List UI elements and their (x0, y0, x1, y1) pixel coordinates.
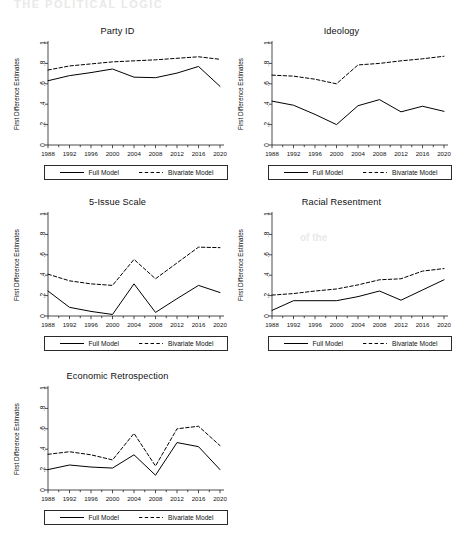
series-line-full-model (48, 443, 220, 476)
legend-item-full-model[interactable]: Full Model (59, 340, 119, 347)
x-tick-label: 2004 (127, 495, 141, 502)
legend-item-bivariate-model[interactable]: Bivariate Model (362, 340, 437, 347)
x-tick-label: 2012 (394, 321, 408, 328)
legend-item-full-model[interactable]: Full Model (283, 169, 343, 176)
legend-label: Full Model (313, 169, 343, 176)
chart-panel-racial-resentment: Racial Resentment0.2.4.6.81First Differe… (232, 197, 451, 359)
y-tick-label: 1 (39, 386, 46, 390)
plot-area: 0.2.4.6.81First Difference Estimates1988… (232, 26, 451, 188)
x-tick-label: 1988 (41, 495, 55, 502)
y-tick-label: .4 (263, 101, 270, 107)
legend-label: Full Model (89, 514, 119, 521)
legend-item-bivariate-model[interactable]: Bivariate Model (138, 340, 213, 347)
legend-item-bivariate-model[interactable]: Bivariate Model (138, 514, 213, 521)
y-tick-label: .2 (263, 121, 270, 127)
x-tick-label: 2004 (351, 150, 365, 157)
plot-area: 0.2.4.6.81First Difference Estimates1988… (8, 371, 227, 533)
y-tick-label: .4 (39, 272, 46, 278)
y-tick-label: .4 (39, 101, 46, 107)
plot-area: 0.2.4.6.81First Difference Estimates1988… (8, 197, 227, 359)
y-tick-label: .6 (263, 81, 270, 87)
legend-swatch-solid (59, 514, 85, 521)
chart-panel-economic-retrospection: Economic Retrospection0.2.4.6.81First Di… (8, 371, 227, 533)
y-tick-label: .6 (39, 81, 46, 87)
y-tick-label: .8 (39, 231, 46, 237)
x-tick-label: 1988 (265, 150, 279, 157)
legend-label: Bivariate Model (168, 340, 213, 347)
legend-swatch-solid (283, 169, 309, 176)
x-tick-label: 2008 (149, 150, 163, 157)
chart-legend: Full ModelBivariate Model (268, 336, 452, 351)
x-tick-label: 2020 (213, 150, 227, 157)
y-axis-label: First Difference Estimates (13, 229, 20, 301)
legend-item-bivariate-model[interactable]: Bivariate Model (362, 169, 437, 176)
legend-swatch-dashed (138, 340, 164, 347)
y-axis-label: First Difference Estimates (237, 229, 244, 301)
x-tick-label: 1992 (63, 321, 77, 328)
y-tick-label: 1 (263, 212, 270, 216)
y-tick-label: .6 (263, 252, 270, 258)
legend-swatch-dashed (138, 514, 164, 521)
x-tick-label: 2008 (149, 495, 163, 502)
x-tick-label: 2016 (192, 495, 206, 502)
x-tick-label: 2000 (106, 150, 120, 157)
x-tick-label: 2000 (330, 150, 344, 157)
chart-legend: Full ModelBivariate Model (44, 165, 228, 180)
y-tick-label: .8 (263, 60, 270, 66)
legend-item-bivariate-model[interactable]: Bivariate Model (138, 169, 213, 176)
legend-item-full-model[interactable]: Full Model (283, 340, 343, 347)
legend-label: Bivariate Model (392, 169, 437, 176)
y-tick-label: 0 (263, 143, 270, 147)
chart-legend: Full ModelBivariate Model (44, 336, 228, 351)
y-tick-label: 0 (39, 143, 46, 147)
series-line-bivariate-model (272, 269, 444, 296)
figure-sheet: THE POLITICAL LOGIC of the Party ID0.2.4… (0, 0, 454, 537)
y-tick-label: 1 (39, 212, 46, 216)
x-tick-label: 2004 (127, 321, 141, 328)
x-tick-label: 1996 (308, 321, 322, 328)
y-tick-label: .2 (39, 292, 46, 298)
y-tick-label: .4 (39, 446, 46, 452)
x-tick-label: 2016 (416, 321, 430, 328)
chart-legend: Full ModelBivariate Model (268, 165, 452, 180)
legend-label: Bivariate Model (168, 169, 213, 176)
plot-area: 0.2.4.6.81First Difference Estimates1988… (232, 197, 451, 359)
x-tick-label: 2000 (330, 321, 344, 328)
legend-swatch-dashed (362, 169, 388, 176)
y-tick-label: 0 (263, 314, 270, 318)
plot-area: 0.2.4.6.81First Difference Estimates1988… (8, 26, 227, 188)
x-tick-label: 2020 (437, 150, 451, 157)
x-tick-label: 2012 (170, 495, 184, 502)
legend-label: Full Model (313, 340, 343, 347)
legend-swatch-dashed (138, 169, 164, 176)
legend-item-full-model[interactable]: Full Model (59, 169, 119, 176)
x-tick-label: 2012 (170, 321, 184, 328)
legend-label: Full Model (89, 340, 119, 347)
series-line-bivariate-model (272, 56, 444, 84)
legend-swatch-dashed (362, 340, 388, 347)
x-tick-label: 2016 (416, 150, 430, 157)
x-tick-label: 2004 (127, 150, 141, 157)
y-tick-label: .2 (263, 292, 270, 298)
x-tick-label: 2020 (437, 321, 451, 328)
series-line-full-model (48, 284, 220, 315)
x-tick-label: 2020 (213, 495, 227, 502)
y-axis-label: First Difference Estimates (13, 403, 20, 475)
x-tick-label: 1996 (84, 495, 98, 502)
x-tick-label: 2000 (106, 495, 120, 502)
series-line-full-model (272, 100, 444, 125)
chart-panel-party-id: Party ID0.2.4.6.81First Difference Estim… (8, 26, 227, 188)
y-tick-label: 1 (39, 41, 46, 45)
legend-item-full-model[interactable]: Full Model (59, 514, 119, 521)
legend-swatch-solid (59, 340, 85, 347)
x-tick-label: 2004 (351, 321, 365, 328)
y-axis-label: First Difference Estimates (237, 58, 244, 130)
y-tick-label: .8 (39, 405, 46, 411)
x-tick-label: 2008 (373, 150, 387, 157)
y-tick-label: 0 (39, 488, 46, 492)
y-tick-label: .8 (39, 60, 46, 66)
x-tick-label: 1992 (63, 495, 77, 502)
x-tick-label: 1992 (63, 150, 77, 157)
chart-legend: Full ModelBivariate Model (44, 510, 228, 525)
x-tick-label: 2008 (149, 321, 163, 328)
